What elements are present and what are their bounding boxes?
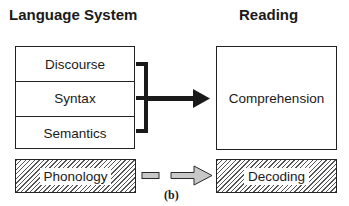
gray-arrow-icon <box>142 166 212 185</box>
black-arrow-icon <box>146 89 210 108</box>
figure-caption: (b) <box>164 188 179 203</box>
connector-layer <box>0 0 349 206</box>
bracket-connector <box>136 64 146 131</box>
